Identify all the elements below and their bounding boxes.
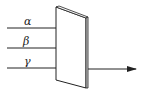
beta-label: β [22, 35, 29, 48]
plate [56, 6, 88, 88]
diagram-canvas: α β γ [0, 0, 143, 99]
gamma-label: γ [24, 55, 31, 68]
alpha-label: α [24, 15, 32, 28]
